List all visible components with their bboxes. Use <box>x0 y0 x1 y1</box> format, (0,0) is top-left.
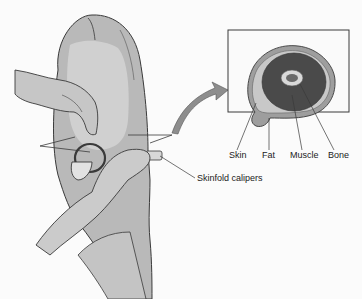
cross-section <box>248 46 335 127</box>
label-bone: Bone <box>328 151 349 160</box>
arrow-to-inset <box>172 82 228 134</box>
label-fat: Fat <box>262 151 275 160</box>
label-skin: Skin <box>229 151 247 160</box>
label-calipers: Skinfold calipers <box>197 174 263 183</box>
label-muscle: Muscle <box>290 151 319 160</box>
